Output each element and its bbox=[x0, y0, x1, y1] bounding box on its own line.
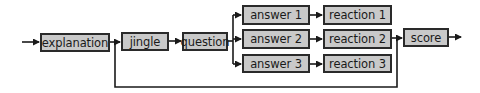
flowchart-diagram: explanation jingle question answer 1 ans… bbox=[0, 0, 480, 93]
node-answer-3: answer 3 bbox=[242, 54, 310, 73]
node-question: question bbox=[182, 32, 228, 51]
node-reaction-2: reaction 2 bbox=[323, 29, 392, 49]
node-reaction-3: reaction 3 bbox=[323, 54, 392, 73]
node-reaction-1: reaction 1 bbox=[323, 5, 392, 25]
node-score: score bbox=[403, 28, 449, 47]
node-answer-1: answer 1 bbox=[242, 5, 310, 25]
node-jingle: jingle bbox=[121, 32, 169, 51]
node-explanation: explanation bbox=[40, 33, 110, 52]
node-answer-2: answer 2 bbox=[242, 29, 310, 49]
